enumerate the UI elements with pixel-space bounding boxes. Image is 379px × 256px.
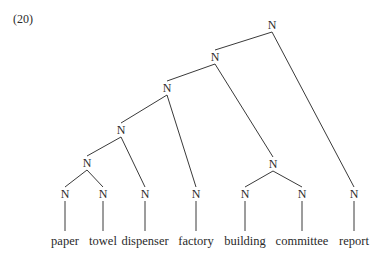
tree-node-n6: N [269, 157, 278, 172]
tree-edges [0, 0, 379, 256]
tree-node-l7: N [350, 187, 359, 202]
tree-edge [65, 170, 87, 187]
tree-edge [121, 95, 167, 123]
tree-node-n5: N [83, 156, 92, 171]
tree-edge [245, 171, 273, 187]
tree-edge [167, 64, 215, 81]
word-committee: committee [276, 234, 329, 249]
tree-edge [167, 95, 196, 187]
word-report: report [339, 234, 369, 249]
tree-node-n3: N [163, 81, 172, 96]
tree-node-l1: N [61, 187, 70, 202]
tree-edge [87, 170, 103, 187]
tree-node-n2: N [211, 50, 220, 65]
word-building: building [224, 234, 266, 249]
word-factory: factory [178, 234, 213, 249]
tree-edge [87, 137, 121, 156]
tree-edge [273, 171, 302, 187]
tree-node-l6: N [298, 187, 307, 202]
tree-edge [272, 32, 354, 187]
tree-node-l5: N [241, 187, 250, 202]
word-towel: towel [89, 234, 117, 249]
tree-edge [215, 32, 272, 50]
word-paper: paper [51, 234, 79, 249]
tree-node-n1: N [268, 18, 277, 33]
tree-node-l3: N [141, 187, 150, 202]
tree-edge [121, 137, 145, 187]
tree-edge [215, 64, 273, 157]
tree-node-l2: N [99, 187, 108, 202]
tree-node-l4: N [192, 187, 201, 202]
word-dispenser: dispenser [121, 234, 168, 249]
tree-node-n4: N [117, 123, 126, 138]
